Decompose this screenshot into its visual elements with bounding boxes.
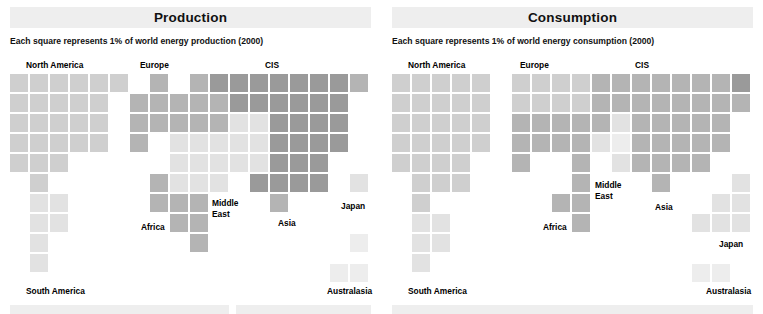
production-square-grid [0, 0, 381, 314]
energy-square [110, 74, 128, 92]
energy-square [712, 94, 730, 112]
energy-square [210, 134, 228, 152]
energy-square [652, 114, 670, 132]
region-label-middle-east-2: East [595, 191, 613, 201]
energy-square [572, 174, 590, 192]
energy-square [572, 214, 590, 232]
energy-square [50, 134, 68, 152]
energy-square [310, 154, 328, 172]
energy-square [452, 94, 470, 112]
energy-square [412, 114, 430, 132]
energy-square [290, 94, 308, 112]
energy-square [672, 154, 690, 172]
energy-square [392, 94, 410, 112]
panel-consumption: Consumption Each square represents 1% of… [382, 0, 763, 314]
energy-square [712, 134, 730, 152]
energy-square [692, 134, 710, 152]
energy-square [412, 94, 430, 112]
energy-square [90, 94, 108, 112]
energy-square [330, 264, 348, 282]
energy-square [250, 134, 268, 152]
energy-square [572, 94, 590, 112]
energy-square [692, 154, 710, 172]
energy-square [392, 114, 410, 132]
energy-square [130, 114, 148, 132]
footer-bar-middle [236, 305, 371, 314]
region-label-japan: Japan [719, 239, 743, 249]
energy-square [210, 174, 228, 192]
energy-square [532, 74, 550, 92]
energy-square [210, 74, 228, 92]
energy-square [250, 74, 268, 92]
energy-square [532, 134, 550, 152]
energy-square [50, 214, 68, 232]
energy-square [572, 194, 590, 212]
energy-square [692, 114, 710, 132]
energy-square [70, 74, 88, 92]
energy-square [330, 94, 348, 112]
energy-square [230, 114, 248, 132]
energy-square [712, 264, 730, 282]
energy-square [30, 234, 48, 252]
energy-square [572, 74, 590, 92]
energy-square [30, 254, 48, 272]
energy-square [270, 194, 288, 212]
energy-square [572, 134, 590, 152]
energy-square [512, 94, 530, 112]
energy-square [432, 94, 450, 112]
energy-square [692, 264, 710, 282]
energy-square [672, 134, 690, 152]
energy-square [270, 174, 288, 192]
energy-square [10, 134, 28, 152]
energy-square [732, 194, 750, 212]
energy-square [712, 214, 730, 232]
energy-square [230, 134, 248, 152]
energy-square [330, 74, 348, 92]
energy-square [612, 134, 630, 152]
energy-square [392, 154, 410, 172]
energy-square [452, 154, 470, 172]
energy-square [270, 134, 288, 152]
energy-square [150, 194, 168, 212]
energy-square [472, 114, 490, 132]
energy-square [270, 154, 288, 172]
energy-square [170, 214, 188, 232]
energy-square [452, 114, 470, 132]
energy-square [250, 94, 268, 112]
energy-square [612, 74, 630, 92]
energy-square [350, 174, 368, 192]
energy-square [672, 114, 690, 132]
energy-square [190, 94, 208, 112]
energy-square [652, 74, 670, 92]
energy-square [712, 74, 730, 92]
energy-square [190, 114, 208, 132]
panel-production: Production Each square represents 1% of … [0, 0, 381, 314]
energy-square [290, 154, 308, 172]
energy-square [10, 74, 28, 92]
energy-square [432, 114, 450, 132]
energy-square [350, 74, 368, 92]
energy-square [210, 154, 228, 172]
energy-square [30, 94, 48, 112]
energy-square [270, 114, 288, 132]
energy-square [70, 134, 88, 152]
energy-square [30, 214, 48, 232]
energy-square [432, 134, 450, 152]
region-label-north-america: North America [26, 60, 83, 70]
energy-square [412, 254, 430, 272]
energy-square [452, 134, 470, 152]
energy-square [310, 94, 328, 112]
energy-square [412, 214, 430, 232]
energy-square [170, 94, 188, 112]
energy-square [632, 74, 650, 92]
region-label-north-america: North America [408, 60, 465, 70]
energy-square [632, 94, 650, 112]
energy-square [30, 154, 48, 172]
footer-bar-right [392, 305, 753, 314]
energy-square [190, 234, 208, 252]
energy-square [170, 134, 188, 152]
energy-square [270, 94, 288, 112]
energy-square [290, 114, 308, 132]
energy-square [632, 134, 650, 152]
energy-square [732, 214, 750, 232]
